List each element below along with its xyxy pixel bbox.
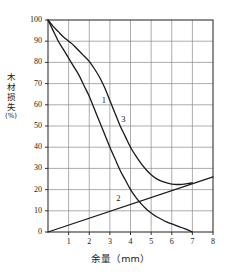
- y-tick-label: 40: [24, 143, 42, 151]
- y-tick-label: 20: [24, 186, 42, 194]
- y-tick-label: 70: [24, 80, 42, 88]
- y-tick-label: 60: [24, 101, 42, 109]
- y-tick-label: 30: [24, 164, 42, 172]
- y-tick-label: 0: [24, 228, 42, 236]
- x-tick-label: 3: [104, 238, 116, 246]
- x-tick-label: 5: [145, 238, 157, 246]
- y-tick-label: 80: [24, 58, 42, 66]
- x-tick-label: 1: [63, 238, 75, 246]
- y-axis-title-unit: (%): [4, 112, 18, 120]
- x-tick-label: 4: [125, 238, 137, 246]
- y-tick-label: 90: [24, 37, 42, 45]
- y-tick-label: 10: [24, 207, 42, 215]
- x-tick-label: 2: [83, 238, 95, 246]
- curve-label-1: 1: [102, 96, 106, 105]
- x-tick-label: 6: [166, 238, 178, 246]
- y-tick-label: 50: [24, 122, 42, 130]
- y-axis-title-text: 木材损失: [7, 72, 16, 112]
- series-curve-3: [48, 20, 192, 185]
- curve-label-2: 2: [116, 194, 120, 203]
- x-axis-title: 余量（mm）: [0, 253, 241, 264]
- grid-lines: [48, 20, 213, 232]
- curve-label-3: 3: [121, 115, 125, 124]
- x-tick-label: 7: [186, 238, 198, 246]
- x-tick-label: 8: [207, 238, 219, 246]
- chart-figure: 0102030405060708090100 12345678 123 木材损失…: [0, 0, 241, 279]
- y-axis-title: 木材损失(%): [4, 72, 18, 120]
- tick-marks: [45, 20, 213, 235]
- y-tick-label: 100: [24, 16, 42, 24]
